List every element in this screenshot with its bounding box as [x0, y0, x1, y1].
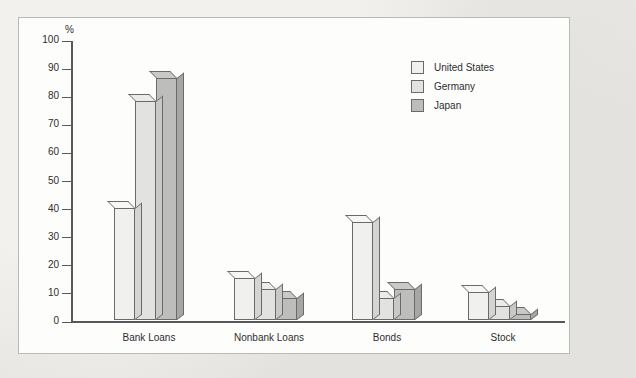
bar-side-face [373, 216, 380, 320]
bar-side-face [394, 292, 401, 320]
bar-side-face [297, 292, 304, 320]
legend-item[interactable]: United States [411, 58, 494, 77]
legend-swatch [411, 61, 424, 74]
figure-panel: % 1009080706050403020100 United StatesGe… [18, 17, 570, 354]
bar-side-face [276, 284, 283, 320]
x-axis-category-label: Bonds [327, 332, 447, 343]
bar[interactable] [114, 208, 135, 320]
bar-top-face [227, 271, 255, 278]
bar-side-face [177, 73, 184, 320]
bar-top-face [345, 215, 373, 222]
bar-top-face [149, 71, 177, 78]
bar-top-face [461, 285, 489, 292]
x-axis-category-label: Nonbank Loans [209, 332, 329, 343]
bar-group [234, 39, 304, 320]
bar[interactable] [468, 292, 489, 320]
legend: United StatesGermanyJapan [411, 58, 494, 115]
bar-side-face [135, 202, 142, 320]
bar-side-face [531, 309, 538, 320]
legend-label: United States [434, 62, 494, 73]
bar-side-face [255, 272, 262, 320]
bar-top-face [387, 282, 415, 289]
bar[interactable] [352, 222, 373, 320]
legend-swatch [411, 80, 424, 93]
legend-label: Japan [434, 100, 461, 111]
bar[interactable] [234, 278, 255, 320]
bar-front-face [468, 292, 489, 320]
bar-front-face [114, 208, 135, 320]
bar-group [114, 39, 184, 320]
legend-label: Germany [434, 81, 475, 92]
bar-top-face [107, 201, 135, 208]
bar-top-face [128, 94, 156, 101]
bar-front-face [352, 222, 373, 320]
plot-area: % 1009080706050403020100 United StatesGe… [19, 18, 569, 353]
legend-item[interactable]: Japan [411, 96, 494, 115]
bar-side-face [156, 95, 163, 320]
legend-item[interactable]: Germany [411, 77, 494, 96]
legend-swatch [411, 99, 424, 112]
bar-side-face [415, 284, 422, 320]
bar-front-face [234, 278, 255, 320]
x-axis-category-label: Bank Loans [89, 332, 209, 343]
bar-side-face [489, 286, 496, 320]
x-axis-category-label: Stock [443, 332, 563, 343]
